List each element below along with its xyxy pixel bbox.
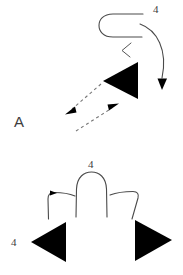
label-bottom-left-number: 4	[11, 236, 17, 248]
dashed-arrow-up-right-shaft	[76, 108, 112, 131]
lower-left-pointing-triangle	[31, 222, 66, 262]
right-hook-bracket-path	[110, 192, 138, 220]
lower-right-pointing-triangle	[135, 220, 172, 261]
dashed-arrow-down-left-head	[65, 107, 77, 115]
label-left-letter: A	[14, 113, 24, 130]
left-hook-bracket-path	[48, 193, 75, 220]
dashed-arrow-down-left-shaft	[72, 84, 101, 109]
u-turn-hook-path	[99, 14, 143, 37]
label-bottom-center-number: 4	[88, 158, 94, 170]
curved-sweep-arrowhead	[158, 79, 168, 91]
curved-sweep-arrow-path	[140, 24, 164, 78]
label-top-right-number: 4	[153, 3, 159, 15]
chevron-left-icon	[122, 43, 131, 57]
figure-canvas: 4 A 4 4	[0, 0, 183, 275]
left-hook-bracket-tip	[50, 191, 57, 196]
inverted-u-arch-path	[76, 172, 107, 217]
upper-left-pointing-triangle	[103, 62, 138, 99]
dashed-arrow-up-right-head	[108, 104, 120, 111]
diagram-svg: 4 A 4 4	[0, 0, 183, 275]
